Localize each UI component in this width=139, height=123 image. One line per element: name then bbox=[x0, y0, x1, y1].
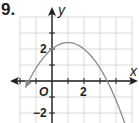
origin-label: O bbox=[39, 85, 49, 99]
x-tick-label-2: 2 bbox=[80, 85, 87, 99]
x-axis-label: x bbox=[129, 63, 138, 79]
y-axis-label: y bbox=[57, 2, 66, 18]
y-tick-label-neg2: −2 bbox=[33, 106, 47, 120]
y-tick-label-2: 2 bbox=[40, 42, 47, 56]
coordinate-plane: x y O 2 2 −2 bbox=[0, 0, 139, 123]
